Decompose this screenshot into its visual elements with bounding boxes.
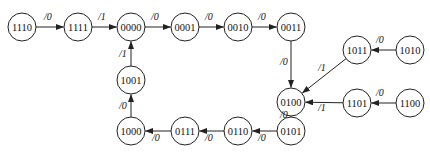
state-label: 1010: [400, 45, 421, 56]
state-node-0011: 0011: [277, 13, 305, 41]
state-node-1100: 1100: [396, 89, 424, 117]
edge-label: /1: [97, 11, 106, 22]
state-label: 0100: [281, 97, 302, 108]
state-node-1011: 1011: [343, 36, 371, 64]
state-node-0110: 0110: [224, 117, 252, 145]
state-node-1101: 1101: [343, 89, 371, 117]
edge-label: /1: [317, 102, 326, 113]
state-label: 1000: [121, 126, 142, 137]
state-label: 1100: [400, 98, 421, 109]
state-label: 0000: [121, 22, 142, 33]
state-node-1110: 1110: [8, 13, 36, 41]
state-node-1001: 1001: [117, 66, 145, 94]
state-node-0010: 0010: [224, 13, 252, 41]
state-label: 0110: [228, 126, 249, 137]
edge-label: /1: [118, 48, 127, 59]
edge-label: /0: [257, 11, 266, 22]
edge-label: /0: [43, 11, 52, 22]
edge-label: /0: [279, 109, 288, 120]
edges-layer: [36, 27, 396, 131]
state-node-0000: 0000: [117, 13, 145, 41]
edge-label: /0: [204, 132, 213, 143]
edge-label: /0: [150, 11, 159, 22]
state-node-0001: 0001: [171, 13, 199, 41]
state-node-1111: 1111: [64, 13, 92, 41]
edge-label: /1: [317, 62, 326, 73]
nodes-layer: 1110111100000001001000110100101110101101…: [8, 13, 424, 145]
edge-labels-layer: /0/1/0/0/0/0/1/0/1/0/0/0/0/0/0/1: [43, 11, 384, 143]
state-label: 1110: [12, 22, 32, 33]
edge-label: /0: [375, 34, 384, 45]
state-label: 1001: [121, 75, 142, 86]
edge-label: /0: [257, 132, 266, 143]
state-label: 0111: [175, 126, 195, 137]
state-label: 0101: [281, 126, 302, 137]
edge-label: /0: [204, 11, 213, 22]
state-label: 0001: [175, 22, 196, 33]
state-label: 1101: [347, 98, 368, 109]
state-diagram: 1110111100000001001000110100101110101101…: [0, 0, 430, 157]
state-node-0111: 0111: [171, 117, 199, 145]
state-label: 0011: [281, 22, 302, 33]
state-label: 0010: [228, 22, 249, 33]
state-label: 1011: [347, 45, 368, 56]
edge-label: /0: [279, 56, 288, 67]
edge-label: /0: [151, 132, 160, 143]
state-node-1000: 1000: [117, 117, 145, 145]
state-node-0101: 0101: [277, 117, 305, 145]
edge-label: /0: [118, 100, 127, 111]
state-node-1010: 1010: [396, 36, 424, 64]
edge-label: /0: [375, 87, 384, 98]
state-label: 1111: [68, 22, 88, 33]
